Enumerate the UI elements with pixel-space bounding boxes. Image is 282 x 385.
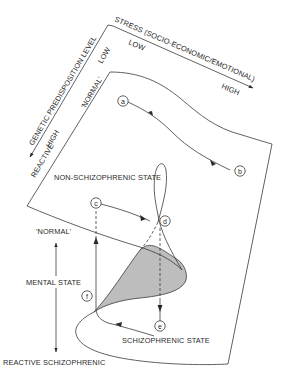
arrow-toward-b-head	[210, 160, 216, 166]
schizophrenic-state-label: SCHIZOPHRENIC STATE	[122, 336, 210, 345]
genetic-low-label: LOW	[96, 46, 112, 65]
surface-top-edge	[110, 72, 272, 144]
mental-state-title: MENTAL STATE	[26, 278, 81, 287]
arrow-e-f-head	[115, 322, 122, 327]
stress-axis-arrow	[108, 25, 253, 88]
node-c: c	[91, 198, 101, 208]
normal-edge-label: 'NORMAL'	[79, 75, 105, 110]
arrow-d-e-head	[158, 305, 163, 312]
surface-right-edge	[228, 144, 272, 364]
node-b: b	[235, 166, 245, 176]
behaviour-surface	[27, 72, 272, 365]
reactive-edge-label: REACTIVE	[29, 142, 56, 179]
node-e: e	[155, 321, 165, 331]
stress-high-label: HIGH	[220, 82, 241, 98]
node-d: d	[160, 216, 170, 226]
svg-text:e: e	[158, 323, 162, 330]
fold-shaded-region	[94, 245, 186, 312]
arrow-f-up-head	[94, 237, 99, 244]
path-e-to-f	[96, 310, 154, 336]
svg-text:c: c	[94, 200, 98, 207]
svg-text:d: d	[163, 218, 167, 225]
cusp-catastrophe-diagram: STRESS (SOCIO-ECONOMIC/EMOTIONAL) LOW HI…	[0, 0, 282, 385]
reactive-schizophrenic-label: REACTIVE SCHIZOPHRENIC	[3, 358, 106, 367]
mental-state-normal-label: 'NORMAL'	[36, 227, 72, 236]
svg-text:f: f	[86, 293, 88, 300]
arrow-c-d-head	[140, 215, 146, 221]
svg-text:a: a	[121, 98, 125, 105]
node-f: f	[82, 291, 92, 301]
stress-axis	[108, 25, 253, 88]
svg-text:b: b	[238, 168, 242, 175]
non-schizophrenic-state-label: NON-SCHIZOPHRENIC STATE	[54, 173, 161, 182]
path-a-to-b	[128, 102, 230, 170]
node-a: a	[118, 96, 128, 106]
